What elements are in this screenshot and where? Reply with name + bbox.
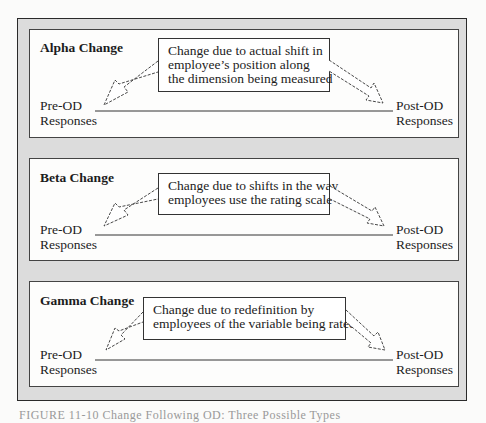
gamma-change-title: Gamma Change	[40, 293, 134, 308]
gamma-change-callout: Change due to redefinition by employees …	[143, 297, 346, 340]
gamma-pre-od-label: Pre-OD Responses	[40, 347, 97, 377]
alpha-change-title: Alpha Change	[40, 40, 123, 55]
beta-change-title: Beta Change	[40, 170, 114, 185]
alpha-pre-od-label: Pre-OD Responses	[40, 98, 97, 128]
beta-pre-od-label: Pre-OD Responses	[40, 222, 97, 252]
figure-caption: FIGURE 11-10 Change Following OD: Three …	[19, 408, 341, 423]
gamma-post-od-label: Post-OD Responses	[396, 347, 453, 377]
alpha-post-od-label: Post-OD Responses	[396, 98, 453, 128]
beta-change-callout: Change due to shifts in the way employee…	[158, 173, 330, 215]
beta-post-od-label: Post-OD Responses	[396, 222, 453, 252]
alpha-change-callout: Change due to actual shift in employee’s…	[158, 38, 330, 92]
